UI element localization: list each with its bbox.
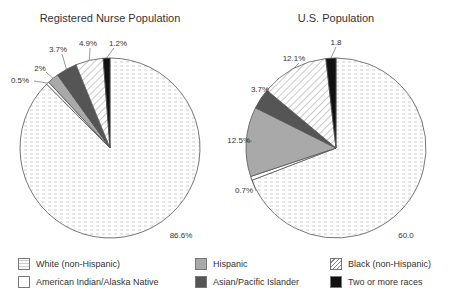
slice-label-american-indian: 0.5% — [11, 76, 29, 85]
legend-swatch-hatch-icon — [330, 258, 342, 270]
slice-label-asian: 3.7% — [49, 45, 67, 54]
legend-swatch-dots-icon — [18, 258, 30, 270]
legend-item-american-indian: American Indian/Alaska Native — [18, 276, 159, 288]
legend: White (non-Hispanic) Hispanic Black (non… — [0, 258, 452, 304]
legend-item-asian: Asian/Pacific Islander — [195, 276, 299, 288]
legend-item-white: White (non-Hispanic) — [18, 258, 120, 270]
legend-label: White (non-Hispanic) — [36, 259, 120, 269]
legend-item-black: Black (non-Hispanic) — [330, 258, 431, 270]
leader-line — [107, 48, 114, 58]
slice-label-two-or-more: 1.2% — [109, 39, 127, 48]
slice-label-black: 12.1% — [283, 54, 306, 63]
legend-item-hispanic: Hispanic — [195, 258, 248, 270]
legend-swatch-white-icon — [18, 276, 30, 288]
slice-label-hispanic: 2% — [34, 64, 46, 73]
slice-label-white: 60.0 — [398, 231, 414, 240]
legend-swatch-black-icon — [330, 276, 342, 288]
slice-label-white: 86.6% — [170, 231, 193, 240]
legend-label: Two or more races — [348, 277, 423, 287]
leader-line — [331, 47, 336, 58]
slice-label-hispanic: 12.5% — [227, 136, 250, 145]
legend-swatch-gray-icon — [195, 258, 207, 270]
legend-swatch-darkgray-icon — [195, 276, 207, 288]
slice-label-asian: 3.7% — [251, 85, 269, 94]
legend-label: American Indian/Alaska Native — [36, 277, 159, 287]
pie-charts: 86.6%0.5%2%3.7%4.9%1.2% 60.00.7%12.5%3.7… — [0, 0, 452, 258]
pie-us-population — [246, 58, 426, 238]
leader-line — [46, 72, 53, 78]
leader-line — [34, 81, 48, 83]
pie-nurse-population — [20, 58, 200, 238]
legend-label: Asian/Pacific Islander — [213, 277, 299, 287]
legend-item-two-or-more: Two or more races — [330, 276, 423, 288]
slice-label-two-or-more: 1.8 — [330, 38, 342, 47]
leader-line — [89, 48, 90, 60]
leader-line — [62, 54, 66, 69]
slice-label-american-indian: 0.7% — [235, 186, 253, 195]
slice-label-black: 4.9% — [79, 39, 97, 48]
legend-label: Hispanic — [213, 259, 248, 269]
legend-label: Black (non-Hispanic) — [348, 259, 431, 269]
